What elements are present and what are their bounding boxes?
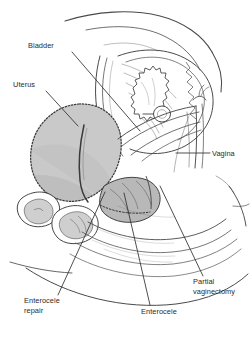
labial-fold-upper-inner [24, 199, 53, 224]
enterocele-sac-group [100, 176, 160, 222]
illustration-canvas [0, 0, 250, 337]
cervical-stump-oval [154, 106, 171, 122]
anatomical-illustration: Bladder Uterus Vagina Partial vaginectom… [0, 0, 250, 337]
